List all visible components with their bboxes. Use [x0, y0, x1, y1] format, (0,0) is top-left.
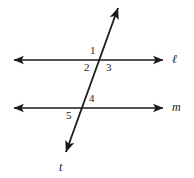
geometry-canvas — [0, 0, 194, 178]
line-t-transversal-segment — [66, 8, 118, 152]
line-label-m: m — [172, 101, 181, 113]
angle-label-1: 1 — [90, 45, 96, 56]
line-label-l: ℓ — [172, 53, 177, 65]
angle-label-5: 5 — [66, 110, 72, 121]
angle-label-2: 2 — [84, 62, 90, 73]
angle-label-3: 3 — [106, 62, 112, 73]
geometry-figure: 1 2 3 4 5 ℓ m t — [0, 0, 194, 178]
angle-label-4: 4 — [89, 93, 95, 104]
line-label-t: t — [59, 161, 62, 173]
